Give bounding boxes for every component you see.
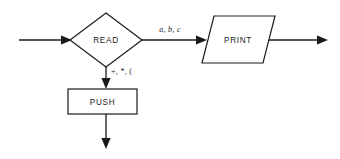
push-exit-arrow [101,114,110,149]
read-to-push-label: +, *, ( [111,67,132,76]
read-label: READ [93,36,119,45]
entry-arrow [19,35,72,44]
flowchart-diagram: READ a, b, c PRINT +, *, ( PUSH [0,0,340,159]
read-to-print-arrow-head-icon [196,35,207,44]
push-exit-arrow-head-icon [101,138,110,149]
read-to-print-label: a, b, c [159,25,181,34]
print-exit-arrow-head-icon [317,35,328,44]
node-push[interactable]: PUSH [68,89,137,114]
push-label: PUSH [90,98,116,107]
print-exit-arrow [269,35,328,44]
flowchart-canvas: READ a, b, c PRINT +, *, ( PUSH [0,0,340,159]
read-to-push-arrow-head-icon [101,78,110,89]
edge-read-to-print: a, b, c [142,25,207,45]
node-print[interactable]: PRINT [202,16,275,63]
print-label: PRINT [224,36,252,45]
node-read[interactable]: READ [70,13,142,67]
edge-read-to-push: +, *, ( [101,67,132,90]
